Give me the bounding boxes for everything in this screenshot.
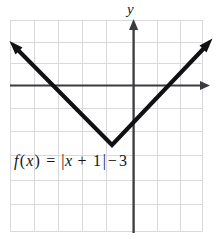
- equation-abs-bar-right: |: [102, 152, 106, 169]
- equation-x-arg: x: [26, 152, 33, 169]
- equation-x-inner: x: [65, 152, 72, 169]
- equation-f: f: [14, 152, 19, 169]
- equation-annotation: f(x) = |x + 1|−3: [14, 152, 128, 170]
- grid-lines: [10, 20, 203, 232]
- function-curve: [10, 39, 213, 146]
- graph-figure: y f(x) = |x + 1|−3: [0, 0, 224, 239]
- equation-minus: −: [107, 152, 118, 169]
- equation-one: 1: [92, 152, 102, 169]
- y-axis-label: y: [127, 2, 134, 17]
- equation-three: 3: [118, 152, 128, 169]
- equation-equals: =: [45, 152, 56, 169]
- coordinate-plane: [0, 0, 224, 239]
- equation-close-paren: ): [34, 152, 42, 169]
- x-axis-arrow-icon: [200, 81, 210, 90]
- equation-plus: +: [77, 152, 88, 169]
